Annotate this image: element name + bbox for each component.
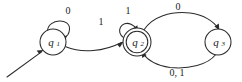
edge-label-q1-q1: 0 <box>66 5 71 16</box>
state-q2-label: q <box>132 36 138 48</box>
edge-q2-q3-path <box>144 13 219 31</box>
state-diagram: q 1 q 2 q 3 0 1 1 0 0, 1 <box>0 0 242 82</box>
start-arrow <box>7 50 44 77</box>
edge-label-q2-q3: 0 <box>176 1 181 12</box>
transition-q2-q3 <box>144 13 220 31</box>
edge-label-q2-q2: 1 <box>126 5 131 16</box>
state-q1[interactable]: q 1 <box>40 29 66 55</box>
state-q3-label: q <box>213 36 219 48</box>
edge-q3-q2-path <box>143 54 216 68</box>
state-q2[interactable]: q 2 <box>123 28 151 56</box>
edge-q1-q2-path <box>66 43 122 51</box>
transition-q3-q2 <box>142 51 216 68</box>
start-arrow-line <box>7 52 42 77</box>
fsm-canvas: q 1 q 2 q 3 0 1 1 0 0, 1 <box>0 0 242 82</box>
edge-label-q1-q2: 1 <box>99 16 104 27</box>
state-q1-subscript: 1 <box>57 40 61 48</box>
state-q2-subscript: 2 <box>141 40 145 48</box>
transition-q1-q2 <box>66 41 124 51</box>
state-q3-subscript: 3 <box>221 40 226 48</box>
state-q1-label: q <box>48 36 54 48</box>
edge-label-q3-q2: 0, 1 <box>170 67 185 78</box>
state-q3[interactable]: q 3 <box>205 29 231 55</box>
